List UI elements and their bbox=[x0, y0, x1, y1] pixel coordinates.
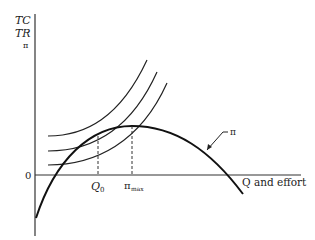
y-label-tc: TC bbox=[15, 14, 31, 27]
y-label-tr: TR bbox=[15, 27, 31, 40]
profit-curve bbox=[36, 126, 243, 218]
tick-label-q0-sub: 0 bbox=[100, 186, 104, 194]
y-label-pi: π bbox=[23, 41, 28, 50]
tick-label-pimax-sub: max bbox=[131, 185, 144, 192]
tick-label-pimax: π bbox=[124, 180, 131, 191]
pi-curve-label: π bbox=[230, 127, 236, 137]
origin-label: 0 bbox=[25, 170, 31, 181]
tick-label-q0: Q bbox=[91, 180, 100, 193]
isoprofit-curve-3 bbox=[48, 83, 167, 165]
isoprofit-curve-2 bbox=[48, 72, 157, 151]
x-axis-label: Q and effort bbox=[242, 176, 307, 188]
isoprofit-curve-1 bbox=[48, 60, 147, 136]
isoprofit-diagram: TC TR π 0 Q 0 π max π Q and effort bbox=[0, 0, 315, 240]
